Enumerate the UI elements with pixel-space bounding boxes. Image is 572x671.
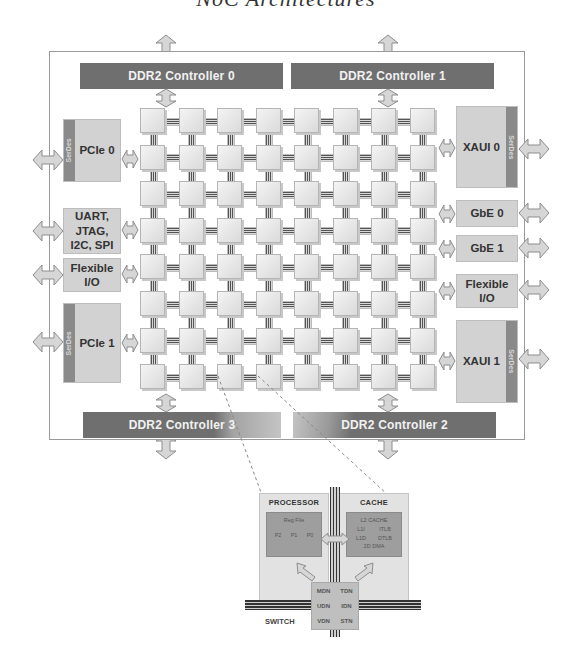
cache-switch-arrow-icon — [355, 563, 373, 581]
network-mdn: MDN — [312, 583, 335, 598]
network-stn: STN — [335, 614, 358, 629]
pipeline-p0: P0 — [307, 531, 314, 540]
l1i-label: L1I — [357, 525, 365, 534]
pipeline-p1: P1 — [291, 531, 298, 540]
tile-detail: PROCESSOR Reg File P2 P1 P0 CACHE L2 CAC… — [257, 493, 409, 623]
cache-core: L2 CACHE L1I ITLB L1D DTLB 2D DMA — [346, 512, 402, 557]
network-tdn: TDN — [335, 583, 358, 598]
dtlb-label: DTLB — [378, 534, 392, 543]
processor-cache-arrow-icon — [321, 533, 349, 545]
processor-label: PROCESSOR — [260, 498, 328, 507]
l2-cache-label: L2 CACHE — [350, 516, 398, 525]
switch-label: SWITCH — [265, 617, 295, 626]
processor-core: Reg File P2 P1 P0 — [266, 512, 322, 557]
itlb-label: ITLB — [379, 525, 391, 534]
cache-label: CACHE — [340, 498, 408, 507]
pipeline-p2: P2 — [275, 531, 282, 540]
network-vdn: VDN — [312, 614, 335, 629]
dma-label: 2D DMA — [350, 542, 398, 551]
network-udn: UDN — [312, 598, 335, 613]
switch-block: MDN TDN UDN IDN VDN STN — [311, 582, 359, 630]
processor-switch-arrow-icon — [297, 563, 315, 581]
network-idn: IDN — [335, 598, 358, 613]
reg-file-label: Reg File — [270, 516, 318, 525]
l1d-label: L1D — [356, 534, 366, 543]
